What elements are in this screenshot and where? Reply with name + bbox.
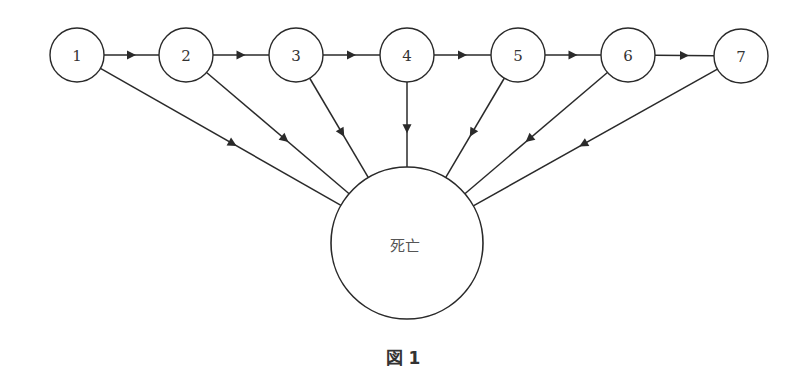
- arrowhead-icon: [127, 51, 136, 60]
- state-node-4: 4: [380, 28, 434, 82]
- state-label: 6: [623, 47, 633, 65]
- state-transition-diagram: 1234567 死亡: [0, 0, 806, 387]
- death-node: 死亡: [331, 167, 483, 319]
- state-node-3: 3: [269, 28, 323, 82]
- arrowhead-icon: [569, 51, 578, 60]
- arrowhead-icon: [403, 124, 412, 133]
- death-state-label: 死亡: [390, 237, 420, 255]
- state-label: 3: [291, 47, 301, 65]
- state-label: 2: [181, 47, 191, 65]
- transition-1-to-death: [100, 68, 341, 205]
- state-node-7: 7: [714, 29, 768, 83]
- arrowhead-icon: [458, 51, 467, 60]
- state-node-1: 1: [50, 28, 104, 82]
- arrowhead-icon: [347, 51, 356, 60]
- arrowhead-icon: [680, 51, 689, 60]
- transition-2-to-death: [207, 72, 350, 193]
- transition-5-to-death: [446, 78, 505, 177]
- state-node-6: 6: [601, 28, 655, 82]
- figure-caption: 図 1: [0, 344, 806, 369]
- state-node-5: 5: [491, 28, 545, 82]
- state-label: 5: [513, 47, 523, 65]
- state-label: 1: [72, 47, 82, 65]
- transition-6-to-death: [465, 72, 608, 193]
- state-label: 7: [736, 48, 746, 66]
- arrowhead-icon: [237, 51, 246, 60]
- state-node-2: 2: [159, 28, 213, 82]
- transition-7-to-death: [473, 69, 717, 206]
- transition-3-to-death: [310, 78, 369, 177]
- state-label: 4: [402, 47, 412, 65]
